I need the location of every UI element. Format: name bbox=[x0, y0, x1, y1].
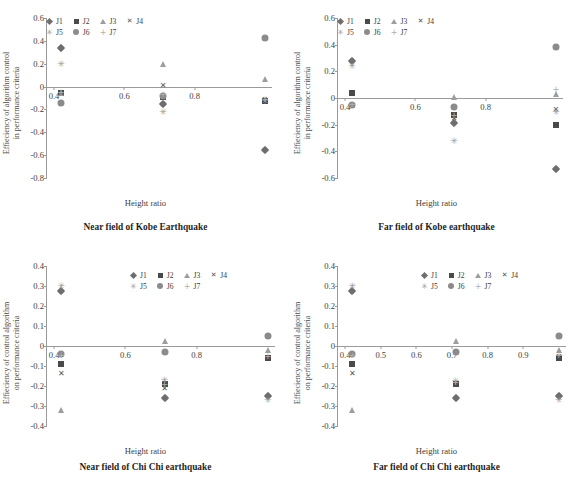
legend-item-j4[interactable]: ✕J4 bbox=[499, 270, 518, 281]
y-tick-mark bbox=[335, 306, 338, 307]
legend-item-j3[interactable]: J3 bbox=[473, 270, 492, 281]
legend-item-j1[interactable]: J1 bbox=[128, 270, 147, 281]
y-tick-mark bbox=[335, 266, 338, 267]
data-point-j3 bbox=[349, 407, 355, 413]
legend-glyph-diamond bbox=[44, 16, 55, 27]
legend-item-j7[interactable]: +J7 bbox=[98, 27, 117, 38]
y-tick-label: -0.8 bbox=[30, 173, 44, 183]
data-point-j7: + bbox=[348, 351, 356, 360]
x-tick-label: 0.6 bbox=[120, 350, 131, 360]
legend-item-j7[interactable]: +J7 bbox=[389, 27, 408, 38]
legend-item-j3[interactable]: J3 bbox=[389, 16, 408, 27]
legend-glyph-square bbox=[155, 270, 166, 281]
y-tick-label: -0.2 bbox=[30, 381, 44, 391]
y-tick-label: -0.1 bbox=[30, 361, 44, 371]
y-axis-title: Effieciency of control algorithmon perfo… bbox=[293, 228, 315, 478]
legend-label: J7 bbox=[485, 281, 492, 292]
legend-item-j7[interactable]: +J7 bbox=[182, 281, 201, 292]
y-tick-mark bbox=[335, 426, 338, 427]
data-point-j1 bbox=[261, 146, 269, 154]
chart-legend: J1J2J3✕J4✳J5J6+J7 bbox=[419, 270, 526, 292]
y-tick-label: 0.4 bbox=[324, 40, 335, 50]
data-point-j6 bbox=[264, 333, 271, 340]
y-axis-title: Effieciency of control algorithmon perfo… bbox=[2, 228, 24, 478]
chart-legend: J1J2J3✕J4✳J5J6+J7 bbox=[335, 16, 442, 38]
y-tick-mark bbox=[335, 151, 338, 152]
x-tick-mark bbox=[194, 87, 195, 90]
legend-label: J3 bbox=[401, 16, 408, 27]
legend-item-j1[interactable]: J1 bbox=[335, 16, 354, 27]
legend-label: J5 bbox=[56, 27, 63, 38]
legend-glyph-diamond bbox=[128, 270, 139, 281]
data-point-j2 bbox=[349, 361, 355, 367]
legend-item-j3[interactable]: J3 bbox=[182, 270, 201, 281]
legend-glyph-cross: ✕ bbox=[208, 270, 219, 281]
data-point-j1 bbox=[552, 164, 560, 172]
y-tick-label: -0.2 bbox=[321, 381, 335, 391]
legend-item-j3[interactable]: J3 bbox=[98, 16, 117, 27]
legend-item-j6[interactable]: J6 bbox=[71, 27, 90, 38]
legend-glyph-diamond bbox=[335, 16, 346, 27]
legend-label: J3 bbox=[110, 16, 117, 27]
legend-item-j4[interactable]: ✕J4 bbox=[124, 16, 143, 27]
chart-caption: Near field of Kobe Earthquake bbox=[0, 222, 291, 232]
y-tick-mark bbox=[44, 286, 47, 287]
legend-item-j2[interactable]: J2 bbox=[71, 16, 90, 27]
legend-item-j5[interactable]: ✳J5 bbox=[335, 27, 354, 38]
data-point-j3 bbox=[160, 61, 166, 67]
legend-item-j2[interactable]: J2 bbox=[362, 16, 381, 27]
plot-area: 0.60.40.20-0.2-0.4-0.60.40.60.8✕✕✕✳✳✳+++ bbox=[337, 18, 563, 178]
legend-glyph-circle bbox=[446, 281, 457, 292]
x-axis-title: Height ratio bbox=[291, 446, 582, 456]
chart-legend: J1J2J3✕J4✳J5J6+J7 bbox=[44, 16, 151, 38]
y-tick-label: -0.2 bbox=[30, 104, 44, 114]
y-tick-mark bbox=[44, 41, 47, 42]
data-point-j3 bbox=[453, 338, 459, 344]
legend-label: J7 bbox=[401, 27, 408, 38]
data-point-j6 bbox=[261, 35, 268, 42]
y-tick-mark bbox=[335, 71, 338, 72]
legend-item-j2[interactable]: J2 bbox=[446, 270, 465, 281]
data-point-j7: + bbox=[450, 111, 458, 120]
legend-item-j5[interactable]: ✳J5 bbox=[128, 281, 147, 292]
x-axis-title: Height ratio bbox=[0, 446, 291, 456]
chart-legend: J1J2J3✕J4✳J5J6+J7 bbox=[128, 270, 235, 292]
x-tick-mark bbox=[54, 346, 55, 349]
x-tick-mark bbox=[125, 346, 126, 349]
legend-item-j1[interactable]: J1 bbox=[44, 16, 63, 27]
x-tick-mark bbox=[487, 346, 488, 349]
legend-item-j6[interactable]: J6 bbox=[362, 27, 381, 38]
data-point-j2 bbox=[349, 90, 355, 96]
legend-glyph-cross: ✕ bbox=[415, 16, 426, 27]
legend-glyph-circle bbox=[71, 27, 82, 38]
y-tick-mark bbox=[44, 406, 47, 407]
legend-item-j1[interactable]: J1 bbox=[419, 270, 438, 281]
data-point-j7: + bbox=[57, 351, 65, 360]
legend-glyph-square bbox=[446, 270, 457, 281]
legend-item-j5[interactable]: ✳J5 bbox=[419, 281, 438, 292]
legend-item-j5[interactable]: ✳J5 bbox=[44, 27, 63, 38]
y-tick-mark bbox=[335, 326, 338, 327]
data-point-j4: ✕ bbox=[349, 370, 356, 378]
legend-item-j4[interactable]: ✕J4 bbox=[208, 270, 227, 281]
legend-item-j7[interactable]: +J7 bbox=[473, 281, 492, 292]
legend-label: J6 bbox=[458, 281, 465, 292]
y-tick-label: -0.3 bbox=[30, 401, 44, 411]
y-tick-label: 0.2 bbox=[324, 301, 335, 311]
x-tick-label: 0.6 bbox=[411, 350, 422, 360]
data-point-j1 bbox=[57, 44, 65, 52]
legend-item-j4[interactable]: ✕J4 bbox=[415, 16, 434, 27]
y-tick-label: 0.2 bbox=[33, 301, 44, 311]
x-tick-mark bbox=[124, 87, 125, 90]
legend-label: J5 bbox=[431, 281, 438, 292]
y-tick-mark bbox=[335, 125, 338, 126]
data-point-j3 bbox=[451, 94, 457, 100]
legend-item-j6[interactable]: J6 bbox=[446, 281, 465, 292]
x-tick-label: 0.9 bbox=[518, 350, 529, 360]
x-tick-label: 0.8 bbox=[191, 350, 202, 360]
legend-label: J5 bbox=[347, 27, 354, 38]
legend-item-j2[interactable]: J2 bbox=[155, 270, 174, 281]
legend-glyph-triangle bbox=[389, 16, 400, 27]
data-point-j5: ✳ bbox=[348, 62, 356, 71]
legend-item-j6[interactable]: J6 bbox=[155, 281, 174, 292]
